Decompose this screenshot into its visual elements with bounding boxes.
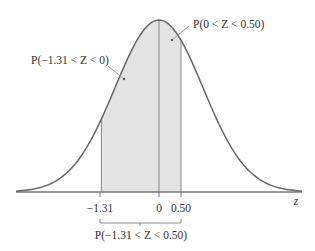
total-area-label: P(−1.31 < Z < 0.50) bbox=[95, 229, 187, 242]
shaded-area bbox=[101, 20, 181, 192]
axis-label-z: z bbox=[293, 195, 299, 207]
right-area-label: P(0 < Z < 0.50) bbox=[193, 18, 265, 31]
right-area-pointer-dot bbox=[171, 39, 173, 41]
left-area-label: P(−1.31 < Z < 0) bbox=[31, 54, 109, 67]
left-area-pointer-dot bbox=[123, 78, 125, 80]
tick-label-050: 0.50 bbox=[171, 202, 191, 214]
tick-label-zero: 0 bbox=[156, 202, 162, 214]
total-area-bracket bbox=[100, 219, 181, 226]
normal-distribution-diagram: −1.31 0 0.50 z P(−1.31 < Z < 0.50) P(−1.… bbox=[0, 0, 315, 251]
tick-label-neg131: −1.31 bbox=[87, 202, 114, 214]
